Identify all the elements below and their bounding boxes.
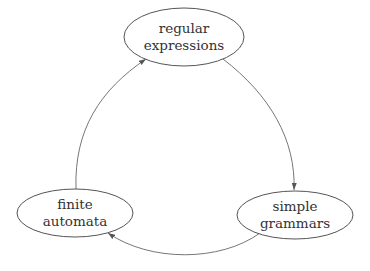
node-label-line2: expressions	[144, 37, 225, 53]
node-label-line1: simple	[273, 198, 318, 214]
node-label-line1: finite	[57, 196, 92, 212]
edge-grammars-to-automata	[108, 233, 260, 255]
node-simple-grammars: simple grammars	[237, 191, 353, 239]
node-label-line2: grammars	[260, 215, 330, 231]
cycle-diagram: regular expressions simple grammars fini…	[0, 0, 370, 271]
node-finite-automata: finite automata	[17, 189, 133, 237]
node-label-line1: regular	[159, 20, 210, 36]
node-label-line2: automata	[43, 213, 108, 229]
edge-automata-to-regex	[76, 59, 146, 189]
node-regular-expressions: regular expressions	[124, 8, 244, 66]
edge-regex-to-grammars	[223, 59, 294, 190]
